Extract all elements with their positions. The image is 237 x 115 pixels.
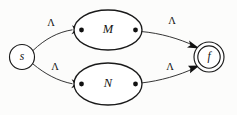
submachine-n-label: N <box>103 76 113 90</box>
submachine-m-entry-port <box>79 28 84 33</box>
submachine-m-label: M <box>102 22 114 36</box>
edge-label-start-to-m: Λ <box>47 17 55 28</box>
edge-label-n-to-final: Λ <box>166 61 174 72</box>
start-state-label: s <box>20 50 25 62</box>
edge-m-to-final <box>141 32 194 46</box>
nfa-diagram-canvas: M N s f Λ Λ Λ Λ <box>0 0 237 115</box>
submachine-n-entry-port <box>79 82 84 87</box>
edge-label-m-to-final: Λ <box>168 15 176 26</box>
submachine-m-exit-port <box>133 28 138 33</box>
edge-label-start-to-n: Λ <box>51 61 59 72</box>
edge-start-to-m <box>33 30 73 51</box>
nfa-state-diagram: M N s f Λ Λ Λ Λ <box>0 0 237 115</box>
submachine-n-exit-port <box>133 82 138 87</box>
